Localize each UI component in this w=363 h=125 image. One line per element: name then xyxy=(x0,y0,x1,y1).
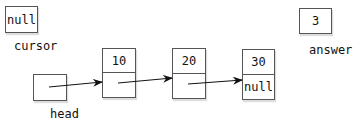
node20-to-node30-arrow xyxy=(188,80,242,84)
head-to-node10-arrow xyxy=(49,82,102,87)
pointer-arrows xyxy=(0,0,363,125)
node10-to-node20-arrow xyxy=(118,78,172,83)
